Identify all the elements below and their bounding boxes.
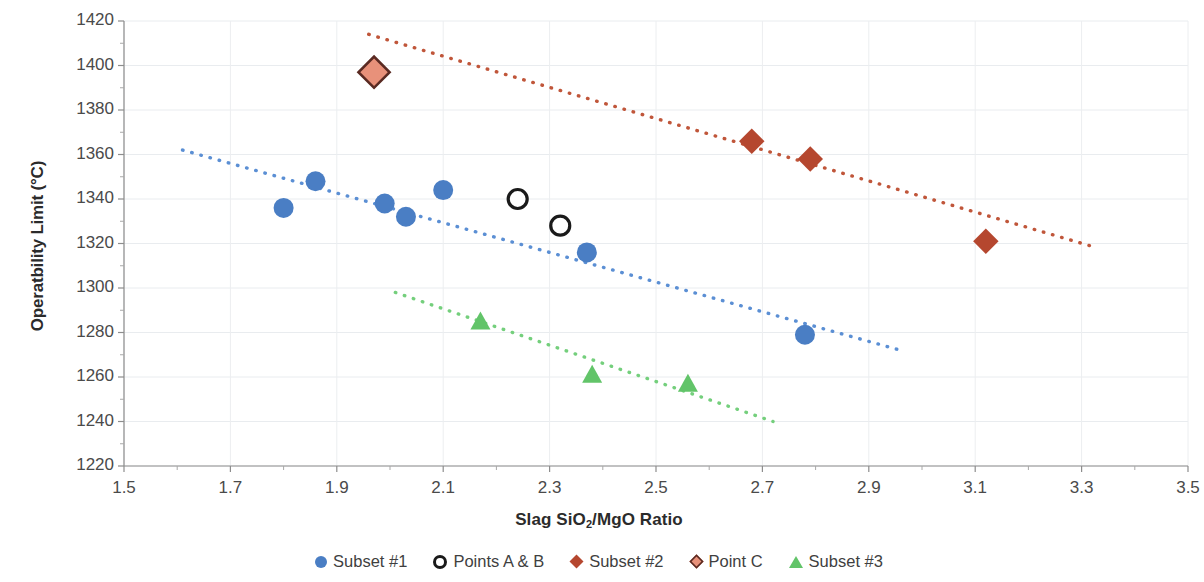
legend-diamond-outlined-icon xyxy=(689,554,703,568)
x-tick-label: 2.1 xyxy=(403,478,483,498)
x-tick-label: 2.5 xyxy=(616,478,696,498)
y-tick-label: 1300 xyxy=(40,277,114,297)
trendline-subset-3 xyxy=(395,292,773,421)
data-point-subset-2 xyxy=(798,146,823,171)
y-tick-label: 1380 xyxy=(40,99,114,119)
legend-item-label: Points A & B xyxy=(453,552,544,571)
y-tick-label: 1220 xyxy=(40,455,114,475)
legend-item-label: Subset #2 xyxy=(589,552,663,571)
legend-diamond-icon xyxy=(570,555,584,569)
legend-item-subset-3[interactable]: Subset #3 xyxy=(789,552,883,571)
legend-item-label: Subset #1 xyxy=(333,552,407,571)
gridlines xyxy=(124,21,1188,466)
data-point-subset-1 xyxy=(274,198,294,218)
x-tick-label: 2.7 xyxy=(722,478,802,498)
data-point-subset-1 xyxy=(433,180,453,200)
axis-ticks xyxy=(118,21,1188,472)
data-point-subset-3 xyxy=(582,365,602,383)
legend-item-points-a-b[interactable]: Points A & B xyxy=(433,552,544,571)
data-point-subset-1 xyxy=(375,193,395,213)
x-tick-label: 1.7 xyxy=(190,478,270,498)
y-tick-label: 1320 xyxy=(40,233,114,253)
legend-item-point-c[interactable]: Point C xyxy=(690,552,763,571)
data-point-subset-3 xyxy=(678,374,698,392)
trendline-subset-1 xyxy=(183,150,901,350)
x-tick-label: 3.5 xyxy=(1148,478,1204,498)
legend-item-subset-2[interactable]: Subset #2 xyxy=(570,552,663,571)
trendline-subset-2 xyxy=(369,34,1098,248)
x-tick-label: 3.3 xyxy=(1042,478,1122,498)
data-point-subset-1 xyxy=(396,207,416,227)
data-point-subset-2 xyxy=(973,229,998,254)
data-point-points-a-b xyxy=(508,190,527,209)
data-point-subset-1 xyxy=(577,242,597,262)
x-tick-label: 1.5 xyxy=(84,478,164,498)
x-tick-label: 2.3 xyxy=(510,478,590,498)
y-tick-label: 1400 xyxy=(40,55,114,75)
y-tick-label: 1240 xyxy=(40,411,114,431)
y-tick-label: 1420 xyxy=(40,10,114,30)
data-point-subset-1 xyxy=(795,325,815,345)
y-tick-label: 1280 xyxy=(40,322,114,342)
legend-item-subset-1[interactable]: Subset #1 xyxy=(315,552,407,571)
y-tick-label: 1260 xyxy=(40,366,114,386)
x-tick-label: 1.9 xyxy=(297,478,377,498)
legend-item-label: Point C xyxy=(709,552,763,571)
data-point-points-a-b xyxy=(551,216,570,235)
chart-legend: Subset #1Points A & BSubset #2Point CSub… xyxy=(0,552,1198,571)
y-tick-label: 1340 xyxy=(40,188,114,208)
x-tick-label: 3.1 xyxy=(935,478,1015,498)
y-tick-label: 1360 xyxy=(40,144,114,164)
data-point-subset-3 xyxy=(470,311,490,329)
legend-circle-icon xyxy=(315,556,327,568)
legend-open-circle-icon xyxy=(433,555,447,569)
x-tick-label: 2.9 xyxy=(829,478,909,498)
data-point-point-c xyxy=(358,57,389,88)
legend-triangle-icon xyxy=(789,556,803,568)
data-point-subset-1 xyxy=(306,171,326,191)
x-axis-title: Slag SiO2/MgO Ratio xyxy=(0,510,1198,530)
legend-item-label: Subset #3 xyxy=(809,552,883,571)
